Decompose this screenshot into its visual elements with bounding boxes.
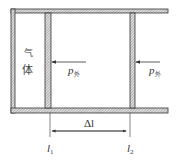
pressure-label-left: p外 [67, 64, 80, 78]
position-label-l2: l2 [127, 142, 134, 156]
cylinder-bottom-wall [11, 108, 168, 113]
gas-label-char-2: 体 [22, 63, 33, 77]
piston-right [130, 13, 135, 108]
cylinder-top-wall [11, 9, 168, 13]
gas-label-char-1: 气 [24, 47, 33, 58]
delta-l-label: Δl [84, 117, 94, 129]
pressure-label-right: p外 [148, 64, 161, 78]
position-label-l1: l1 [47, 142, 54, 156]
cylinder [11, 9, 168, 113]
piston-left [45, 13, 51, 108]
cylinder-left-wall [11, 9, 15, 113]
cylinder-piston-diagram: 气 体 p外 p外 Δl l1 l2 [0, 0, 179, 166]
